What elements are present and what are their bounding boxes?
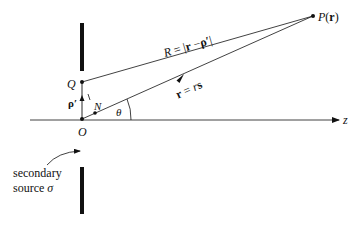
point-P (311, 14, 315, 18)
diffraction-geometry-diagram: Q O N ρ′ θ P(r) R = |r −ρ′| r = rs z sec… (0, 0, 351, 228)
annotation-arrow (47, 151, 80, 165)
annotation-source: source σ (13, 181, 54, 195)
point-Q (80, 80, 84, 84)
screen-barrier-bottom (80, 167, 84, 214)
label-theta: θ (116, 106, 122, 118)
label-Q: Q (67, 77, 76, 91)
screen-barrier-top (80, 23, 84, 71)
theta-arc (127, 99, 131, 120)
rho-prime-arrowhead (80, 95, 85, 101)
rho-prime-tick (88, 94, 90, 100)
label-P: P(r) (317, 10, 339, 24)
label-R-equation: R = |r −ρ′| (161, 33, 214, 60)
annotation-secondary: secondary (13, 166, 62, 180)
point-O (80, 117, 84, 121)
r-vector-line (82, 16, 313, 119)
label-z-axis: z (342, 113, 348, 127)
label-O: O (78, 125, 87, 139)
label-N: N (93, 100, 102, 112)
label-rho-prime: ρ′ (68, 97, 77, 109)
